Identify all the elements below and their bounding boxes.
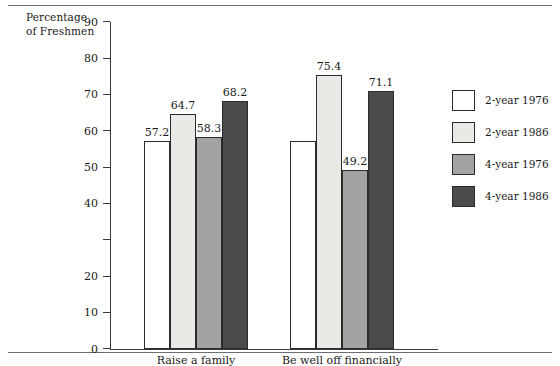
- bar: [196, 137, 222, 349]
- y-axis-tick-label: 80: [64, 53, 98, 64]
- y-axis-tick: [103, 130, 110, 131]
- bar: [316, 75, 342, 349]
- y-axis-tick-label: 60: [64, 126, 98, 137]
- y-axis-tick: [103, 203, 110, 204]
- y-axis-tick: [103, 167, 110, 168]
- bar: [144, 141, 170, 349]
- bar-value-label: 64.7: [163, 100, 203, 111]
- legend-item: 2-year 1976: [452, 84, 549, 116]
- legend-swatch: [452, 186, 475, 207]
- bar: [368, 91, 394, 349]
- bar: [342, 170, 368, 349]
- y-axis-tick-label: 50: [64, 162, 98, 173]
- legend-item: 4-year 1986: [452, 180, 549, 212]
- y-axis-tick-label: 20: [64, 271, 98, 282]
- legend-label: 4-year 1986: [485, 191, 549, 202]
- y-axis-tick-label: 40: [64, 198, 98, 209]
- y-axis-line: [110, 22, 111, 349]
- legend-item: 2-year 1986: [452, 116, 549, 148]
- legend-label: 2-year 1986: [485, 127, 549, 138]
- bar: [170, 114, 196, 349]
- bar-value-label: 68.2: [215, 87, 255, 98]
- y-axis-tick: [103, 239, 110, 240]
- legend-label: 4-year 1976: [485, 159, 549, 170]
- y-axis-tick-label: 10: [64, 307, 98, 318]
- x-axis-category-label: Raise a family: [157, 355, 236, 366]
- y-axis-tick: [103, 21, 110, 22]
- x-axis-line: [110, 349, 438, 350]
- y-axis-tick: [103, 94, 110, 95]
- y-axis-tick-label: 0: [64, 344, 98, 355]
- y-axis-tick-label: 70: [64, 89, 98, 100]
- legend-item: 4-year 1976: [452, 148, 549, 180]
- bar: [222, 101, 248, 349]
- chart-legend: 2-year 19762-year 19864-year 19764-year …: [452, 84, 549, 212]
- y-axis-tick: [103, 58, 110, 59]
- legend-swatch: [452, 90, 475, 111]
- y-axis-tick: [103, 312, 110, 313]
- legend-label: 2-year 1976: [485, 95, 549, 106]
- bar-value-label: 75.4: [309, 61, 349, 72]
- legend-swatch: [452, 154, 475, 175]
- y-axis-tick: [103, 348, 110, 349]
- y-axis-tick: [103, 276, 110, 277]
- bar-value-label: 71.1: [361, 77, 401, 88]
- x-axis-category-label: Be well off financially: [282, 355, 402, 366]
- y-axis-tick-label: 90: [64, 17, 98, 28]
- legend-swatch: [452, 122, 475, 143]
- y-axis-tick-label: 30: [64, 235, 98, 246]
- bar: [290, 141, 316, 349]
